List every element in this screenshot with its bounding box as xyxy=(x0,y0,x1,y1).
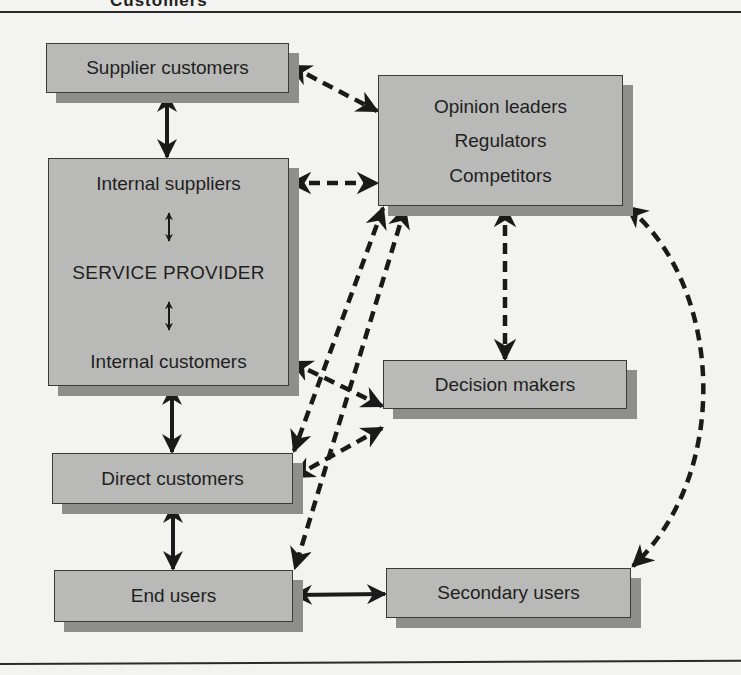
competitors-label: Competitors xyxy=(449,165,551,187)
supplier-customers-label: Supplier customers xyxy=(86,57,249,79)
arrow-internalcust-decision xyxy=(292,362,382,406)
secondary-users-label: Secondary users xyxy=(437,582,580,604)
header-fragment: Customers xyxy=(110,0,208,11)
opinion-leaders-label: Opinion leaders xyxy=(434,96,567,118)
node-supplier-customers: Supplier customers xyxy=(46,43,289,93)
regulators-label: Regulators xyxy=(455,130,547,152)
node-end-users: End users xyxy=(54,570,293,622)
decision-makers-label: Decision makers xyxy=(435,374,575,396)
arrow-opinion-direct xyxy=(294,208,383,451)
top-rule xyxy=(0,11,741,13)
direct-customers-label: Direct customers xyxy=(101,468,244,490)
internal-suppliers-label: Internal suppliers xyxy=(96,173,241,195)
updown-arrow-icon xyxy=(163,210,175,248)
internal-customers-label: Internal customers xyxy=(90,351,246,373)
end-users-label: End users xyxy=(131,585,217,607)
node-decision-makers: Decision makers xyxy=(383,360,627,409)
node-external-influencers: Opinion leaders Regulators Competitors xyxy=(378,75,623,206)
arrow-decision-direct xyxy=(294,428,382,477)
bottom-rule xyxy=(0,660,741,665)
updown-arrow-icon xyxy=(163,299,175,337)
node-service-provider: Internal suppliers SERVICE PROVIDER Inte… xyxy=(48,158,289,386)
node-direct-customers: Direct customers xyxy=(52,453,293,504)
arrow-opinion-secondary xyxy=(627,207,703,566)
arrow-supplier-opinion xyxy=(291,66,377,111)
service-provider-label: SERVICE PROVIDER xyxy=(72,262,264,284)
arrow-endusers-secondary xyxy=(294,594,385,595)
node-secondary-users: Secondary users xyxy=(386,568,631,618)
